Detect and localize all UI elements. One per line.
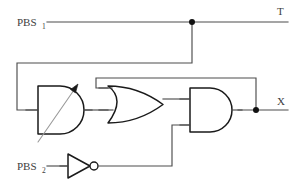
junction-t-line-tap (189, 19, 195, 25)
junction-x-output-tap (253, 107, 259, 113)
label-pbs1-subscript: 1 (42, 22, 46, 31)
and-gate (180, 88, 242, 132)
variable-and-gate (26, 84, 92, 142)
not-gate-body (68, 154, 90, 178)
label-pbs1: PBS (17, 16, 37, 28)
wire-not-to-and (99, 125, 190, 166)
or-gate-body (108, 86, 163, 123)
label-output-x: X (277, 95, 285, 107)
variable-and-gate-body (38, 86, 84, 134)
circuit-diagram: PBS 1 PBS 2 T X (0, 0, 300, 188)
or-gate (99, 86, 163, 123)
label-pbs2: PBS (17, 160, 37, 172)
label-output-t: T (277, 5, 284, 17)
circuit-canvas: PBS 1 PBS 2 T X (0, 0, 300, 188)
label-pbs2-subscript: 2 (42, 166, 46, 175)
not-gate-bubble-icon (90, 162, 98, 170)
and-gate-body (190, 88, 232, 132)
not-gate (60, 154, 98, 178)
